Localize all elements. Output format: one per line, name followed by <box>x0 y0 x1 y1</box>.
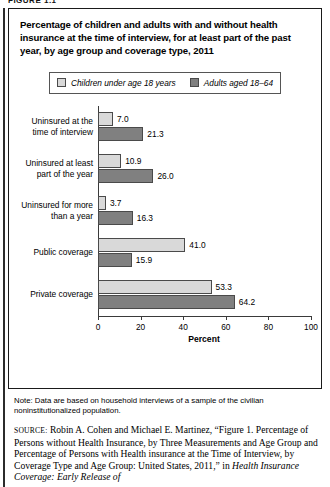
figure-box: Percentage of children and adults with a… <box>8 8 322 389</box>
legend-label-children: Children under age 18 years <box>71 78 176 88</box>
x-axis-tick-label: 100 <box>304 322 318 332</box>
chart-source: SOURCE: Robin A. Cohen and Michael E. Ma… <box>14 424 320 483</box>
category-label: Private coverage <box>30 289 93 299</box>
bar-value-label: 15.9 <box>136 253 152 267</box>
bar <box>98 211 133 225</box>
x-axis-title: Percent <box>188 334 220 344</box>
x-axis-tick-label: 60 <box>221 322 230 332</box>
x-axis-tick <box>141 316 142 320</box>
legend-swatch-adults-icon <box>190 78 199 87</box>
figure-number-label: FIGURE 1.1 <box>8 0 57 3</box>
x-axis-tick <box>311 316 312 320</box>
chart-title: Percentage of children and adults with a… <box>20 18 311 58</box>
x-axis-tick <box>183 316 184 320</box>
value-axis-area: Percent 0204060801007.021.310.926.03.716… <box>98 106 314 338</box>
bar <box>98 280 212 294</box>
legend-entry-children: Children under age 18 years <box>57 78 176 88</box>
legend-label-adults: Adults aged 18–64 <box>204 78 273 88</box>
bar-value-label: 64.2 <box>239 295 255 309</box>
category-label: Uninsured at thetime of interview <box>32 116 93 137</box>
bar-value-label: 10.9 <box>125 154 141 168</box>
chart-plot-area: Uninsured at thetime of interviewUninsur… <box>9 106 321 338</box>
category-label: Uninsured for morethan a year <box>21 200 93 221</box>
category-label: Uninsured at leastpart of the year <box>25 158 93 179</box>
bar <box>98 238 185 252</box>
bar <box>98 154 121 168</box>
bar <box>98 169 153 183</box>
x-axis-line <box>98 316 311 317</box>
bar-value-label: 3.7 <box>110 196 122 210</box>
x-axis-tick-label: 20 <box>136 322 145 332</box>
legend-swatch-children-icon <box>57 78 66 87</box>
bar <box>98 295 235 309</box>
bar <box>98 196 106 210</box>
bar-value-label: 16.3 <box>137 211 153 225</box>
bar-value-label: 21.3 <box>147 127 163 141</box>
x-axis-tick <box>268 316 269 320</box>
category-label: Public coverage <box>33 247 93 257</box>
bar-value-label: 26.0 <box>157 169 173 183</box>
bar-value-label: 53.3 <box>216 280 232 294</box>
x-axis-tick <box>226 316 227 320</box>
page-left-rule <box>3 8 5 487</box>
bar <box>98 112 113 126</box>
source-prefix-label: SOURCE: <box>14 426 47 435</box>
category-axis-labels: Uninsured at thetime of interviewUninsur… <box>9 106 97 316</box>
bar <box>98 253 132 267</box>
bar-value-label: 41.0 <box>189 238 205 252</box>
chart-legend: Children under age 18 years Adults aged … <box>49 72 281 94</box>
chart-note: Note: Data are based on household interv… <box>14 396 314 417</box>
x-axis-tick <box>98 316 99 320</box>
legend-entry-adults: Adults aged 18–64 <box>190 78 273 88</box>
bar-value-label: 7.0 <box>117 112 129 126</box>
x-axis-tick-label: 0 <box>96 322 101 332</box>
x-axis-tick-label: 80 <box>264 322 273 332</box>
x-axis-tick-label: 40 <box>179 322 188 332</box>
bar <box>98 127 143 141</box>
